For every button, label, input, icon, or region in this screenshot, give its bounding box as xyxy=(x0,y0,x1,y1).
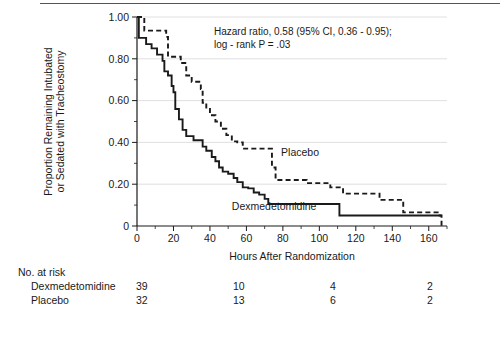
x-tick-label: 160 xyxy=(420,232,438,244)
risk-value: 4 xyxy=(330,280,336,292)
risk-value: 2 xyxy=(427,294,433,306)
kaplan-meier-figure: 00.200.400.600.801.000204060801001201401… xyxy=(0,0,500,337)
y-tick-label: 0.40 xyxy=(109,136,130,148)
risk-value: 32 xyxy=(136,294,148,306)
series-label-dexmedetomidine: Dexmedetomidine xyxy=(232,200,317,212)
y-tick-label: 0.60 xyxy=(109,94,130,106)
x-tick-label: 140 xyxy=(384,232,402,244)
risk-table-title: No. at risk xyxy=(18,266,65,278)
series-label-placebo: Placebo xyxy=(281,146,319,158)
x-tick-label: 100 xyxy=(311,232,329,244)
y-tick-label: 1.00 xyxy=(109,11,130,23)
x-tick-label: 0 xyxy=(134,232,140,244)
risk-value: 6 xyxy=(330,294,336,306)
risk-value: 13 xyxy=(233,294,245,306)
survival-plot: 00.200.400.600.801.000204060801001201401… xyxy=(0,0,500,270)
risk-value: 10 xyxy=(233,280,245,292)
risk-row-dexmedetomidine: Dexmedetomidine 39 10 4 2 xyxy=(0,280,500,294)
y-tick-label: 0 xyxy=(123,220,129,232)
risk-row-placebo: Placebo 32 13 6 2 xyxy=(0,294,500,308)
risk-row-label: Placebo xyxy=(31,294,69,306)
y-axis-title-line1: Proportion Remaining Intubated xyxy=(42,47,54,195)
x-axis-title: Hours After Randomization xyxy=(229,250,355,262)
x-tick-label: 120 xyxy=(347,232,365,244)
x-tick-label: 20 xyxy=(168,232,180,244)
risk-row-label: Dexmedetomidine xyxy=(31,280,116,292)
risk-value: 39 xyxy=(136,280,148,292)
y-tick-label: 0.20 xyxy=(109,178,130,190)
y-axis-title-line2: or Sedated with Tracheostomy xyxy=(54,50,66,193)
hazard-ratio-annotation: Hazard ratio, 0.58 (95% CI, 0.36 - 0.95)… xyxy=(214,26,392,37)
risk-value: 2 xyxy=(427,280,433,292)
x-tick-label: 40 xyxy=(204,232,216,244)
y-tick-label: 0.80 xyxy=(109,53,130,65)
x-tick-label: 60 xyxy=(241,232,253,244)
log-rank-annotation: log - rank P = .03 xyxy=(214,39,291,50)
x-tick-label: 80 xyxy=(277,232,289,244)
